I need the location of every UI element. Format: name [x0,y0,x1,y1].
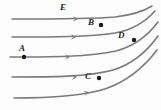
streamline-group [10,6,158,98]
point-marker-c [97,76,101,80]
streamline-1 [12,6,152,19]
point-marker-b [99,23,103,27]
streamline-canvas [0,0,161,110]
point-label-e: E [60,3,66,12]
point-label-b: B [88,18,94,27]
point-marker-d [132,38,136,42]
point-label-a: A [19,44,25,53]
streamline-2 [12,11,155,37]
streamline-diagram: EBADC [0,0,161,110]
point-label-c: C [85,72,91,81]
point-label-d: D [118,31,125,40]
point-marker-a [22,55,26,59]
